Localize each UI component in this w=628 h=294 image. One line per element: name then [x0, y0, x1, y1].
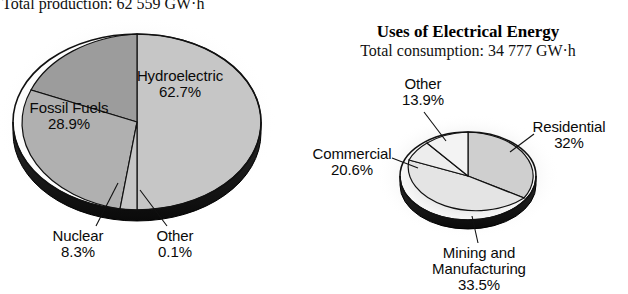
label-commercial: Commercial 20.6% — [300, 146, 404, 178]
label-other-right-pct: 13.9% — [378, 92, 468, 108]
label-nuclear-pct: 8.3% — [38, 244, 118, 260]
right-chart-total-consumption: Total consumption: 34 777 GW·h — [318, 42, 618, 60]
label-hydroelectric: Hydroelectric 62.7% — [120, 68, 240, 100]
label-nuclear: Nuclear 8.3% — [38, 228, 118, 260]
label-residential-pct: 32% — [512, 135, 626, 151]
label-mining-pct: 33.5% — [406, 277, 552, 293]
right-chart-title: Uses of Electrical Energy — [318, 22, 618, 42]
label-mining-line2: Manufacturing — [406, 261, 552, 277]
figure-canvas: Total production: 62 559 GW·h Hydroelect… — [0, 0, 628, 294]
label-hydroelectric-name: Hydroelectric — [137, 67, 223, 84]
label-commercial-name: Commercial — [312, 145, 391, 162]
label-other-left-name: Other — [156, 227, 193, 244]
label-other-left: Other 0.1% — [135, 228, 215, 260]
label-mining-line1: Mining and — [443, 244, 515, 261]
label-other-right-name: Other — [404, 75, 441, 92]
label-commercial-pct: 20.6% — [300, 162, 404, 178]
label-fossil-fuels-pct: 28.9% — [14, 116, 124, 132]
label-other-left-pct: 0.1% — [135, 244, 215, 260]
left-chart-total-production: Total production: 62 559 GW·h — [2, 0, 262, 13]
label-fossil-fuels-name: Fossil Fuels — [30, 99, 109, 116]
label-hydroelectric-pct: 62.7% — [120, 84, 240, 100]
label-residential-name: Residential — [532, 118, 605, 135]
label-nuclear-name: Nuclear — [53, 227, 104, 244]
label-residential: Residential 32% — [512, 119, 626, 151]
label-mining-manufacturing: Mining and Manufacturing 33.5% — [406, 245, 552, 293]
label-other-right: Other 13.9% — [378, 76, 468, 108]
label-fossil-fuels: Fossil Fuels 28.9% — [14, 100, 124, 132]
